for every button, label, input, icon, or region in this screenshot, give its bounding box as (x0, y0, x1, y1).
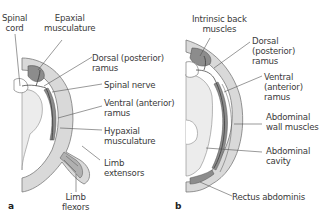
panel-letter-a: a (8, 201, 14, 211)
panel-letter-b: b (175, 201, 181, 211)
panel-b-drawing (186, 38, 262, 196)
label-spinal-cord: Spinal cord (2, 13, 27, 33)
label-ventral-ramus-b: Ventral (anterior) ramus (264, 72, 303, 102)
label-spinal-nerve: Spinal nerve (104, 80, 155, 90)
panel-a-drawing (14, 34, 102, 192)
label-rectus-abdominis: Rectus abdominis (232, 192, 305, 202)
label-limb-flexors: Limb flexors (62, 192, 89, 212)
label-ventral-ramus-a: Ventral (anterior) ramus (104, 98, 174, 118)
label-intrinsic-back-muscles: Intrinsic back muscles (192, 14, 247, 34)
label-dorsal-ramus-b: Dorsal (posterior) ramus (252, 36, 295, 66)
label-abdominal-cavity: Abdominal cavity (266, 146, 310, 166)
label-dorsal-ramus-a: Dorsal (posterior) ramus (92, 53, 164, 73)
label-epaxial-musculature: Epaxial musculature (44, 13, 95, 33)
label-hypaxial-musculature: Hypaxial musculature (104, 126, 155, 146)
label-abdominal-wall-muscles: Abdominal wall muscles (266, 112, 319, 132)
label-limb-extensors: Limb extensors (104, 158, 144, 178)
